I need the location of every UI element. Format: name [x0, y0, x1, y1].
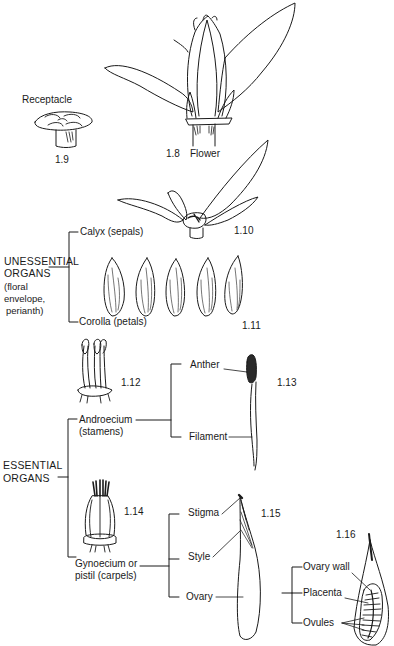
ovules-label: Ovules: [303, 617, 334, 628]
figure-number-1-12: 1.12: [121, 377, 140, 388]
petal-2-veins: [141, 268, 152, 313]
petal-4-veins: [201, 268, 213, 313]
anther-leader: [224, 369, 247, 372]
androecium-label-line2: (stamens): [79, 426, 123, 437]
figure-number-1-15: 1.15: [261, 508, 280, 519]
figure-number-1-14: 1.14: [124, 506, 143, 517]
ovary-label: Ovary: [186, 591, 213, 602]
stamen-detail-illustration: [247, 355, 257, 470]
stigma-tufts: [93, 480, 109, 496]
stigma-tip: [239, 495, 242, 498]
corolla-label: Corolla (petals): [79, 316, 147, 327]
ovule-rungs: [362, 593, 381, 637]
placenta-label: Placenta: [303, 587, 342, 598]
placenta-leader: [345, 598, 368, 603]
flower-anatomy-diagram: Receptacle 1.9 1.8 Flower 1.10 Calyx (se…: [0, 0, 394, 646]
style-label: Style: [188, 551, 210, 562]
flower-receptacle: [186, 118, 232, 125]
unessential-bracket: [49, 232, 78, 322]
calyx-stem: [190, 228, 203, 239]
androecium-bracket: [136, 364, 252, 437]
calyx-left-sepal: [118, 199, 183, 222]
receptacle-illustration: [35, 112, 92, 148]
filament-shape: [251, 382, 258, 470]
essential-title-line1: ESSENTIAL: [3, 459, 63, 471]
calyx-receptacle-detail: [188, 214, 200, 222]
unessential-title-line2: ORGANS: [4, 267, 51, 279]
petal-5-veins: [229, 268, 240, 311]
stigma-label: Stigma: [188, 507, 219, 518]
anther-label: Anther: [190, 359, 219, 370]
ovary-wall-leader: [352, 573, 370, 590]
carpel-divisions: [90, 496, 111, 537]
flower-illustration: [105, 3, 295, 146]
figure-number-1-10: 1.10: [234, 225, 253, 236]
flower-label: Flower: [190, 148, 220, 159]
corolla-illustration: [104, 256, 242, 316]
calyx-label: Calyx (sepals): [80, 226, 143, 237]
unessential-note-line2: envelope,: [4, 293, 45, 304]
flower-bud-center: [197, 20, 217, 116]
essential-title-line2: ORGANS: [3, 472, 50, 484]
ovules-leader: [342, 618, 364, 630]
stamen-anthers: [82, 339, 106, 354]
flower-sepal-left: [174, 40, 188, 52]
receptacle-petal-scars: [45, 114, 82, 126]
flower-left-leaf: [105, 65, 193, 112]
anther-shape: [247, 355, 257, 383]
unessential-note-line3: perianth): [6, 305, 44, 316]
petal-4: [197, 258, 216, 316]
pistil-outline: [237, 496, 260, 639]
petal-3-veins: [170, 268, 182, 313]
unessential-note-line1: (floral: [4, 281, 28, 292]
filament-label: Filament: [189, 431, 227, 442]
receptacle-hatch: [66, 132, 73, 142]
pistil-cluster-illustration: [84, 480, 116, 552]
carpel-stem: [90, 545, 110, 552]
figure-number-1-8: 1.8: [166, 148, 180, 159]
style-leader: [213, 531, 240, 557]
style-shading: [240, 500, 253, 548]
figure-number-1-9: 1.9: [55, 154, 69, 165]
pistil-illustration: [237, 495, 260, 639]
stigma-leader: [222, 498, 240, 514]
petal-1-veins: [108, 268, 120, 312]
gynoecium-label-line1: Gynoecium or: [75, 558, 137, 569]
receptacle-top: [35, 112, 92, 130]
figure-number-1-11: 1.11: [242, 320, 261, 331]
petal-2: [136, 258, 155, 316]
receptacle-label: Receptacle: [22, 94, 72, 105]
flower-stem-hatch: [194, 126, 214, 135]
stamen-base: [78, 386, 112, 396]
essential-bracket: [58, 419, 77, 557]
stamens-illustration: [78, 339, 112, 403]
figure-number-1-13: 1.13: [277, 377, 296, 388]
figure-number-1-16: 1.16: [336, 529, 355, 540]
androecium-label-line1: Androecium: [79, 414, 132, 425]
ovary-wall-label: Ovary wall: [303, 561, 350, 572]
gynoecium-label-line2: pistil (carpels): [75, 570, 137, 581]
unessential-title-line1: UNESSENTIAL: [4, 255, 79, 267]
